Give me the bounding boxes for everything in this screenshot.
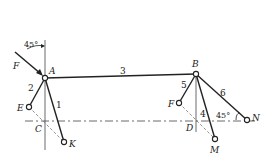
linkage-diagram: 45° F A 3 2 1 E C K B 5 6 F 4 45° N D M — [0, 0, 272, 165]
pin-K — [61, 139, 66, 144]
label-F-force: F — [12, 61, 20, 71]
label-link-6: 6 — [220, 88, 226, 98]
label-link-1: 1 — [56, 100, 62, 110]
label-K: K — [68, 139, 77, 149]
label-E: E — [16, 103, 24, 113]
angle-arc-arrowhead-icon — [41, 44, 45, 48]
label-D: D — [185, 123, 193, 133]
label-link-3: 3 — [120, 66, 126, 76]
angle-label-N: 45° — [216, 111, 230, 120]
label-F-pin: F — [167, 99, 175, 109]
label-C: C — [35, 124, 42, 134]
pin-E — [26, 104, 31, 109]
label-link-5: 5 — [181, 80, 187, 90]
label-link-4: 4 — [200, 109, 206, 119]
angle-label-force: 45° — [24, 40, 38, 49]
pin-A — [42, 75, 47, 80]
pin-B — [193, 71, 198, 76]
label-B: B — [191, 59, 199, 69]
pin-N — [244, 117, 249, 122]
label-M: M — [209, 145, 220, 155]
label-A: A — [48, 66, 56, 76]
pin-M — [212, 136, 217, 141]
pin-F — [176, 100, 181, 105]
label-link-2: 2 — [28, 83, 34, 93]
label-N: N — [251, 113, 261, 123]
